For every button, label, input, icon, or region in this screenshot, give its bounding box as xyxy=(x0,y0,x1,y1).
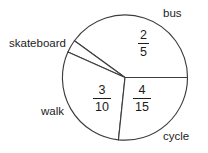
pie-value-walk-numerator: 3 xyxy=(93,84,111,97)
pie-label-bus: bus xyxy=(163,8,182,20)
pie-value-bus-denominator: 5 xyxy=(138,46,149,59)
pie-value-walk-denominator: 10 xyxy=(93,101,111,114)
pie-value-bus: 2 5 xyxy=(138,29,149,58)
pie-label-skateboard: skateboard xyxy=(9,38,66,50)
fraction-bar-icon xyxy=(133,98,151,99)
pie-value-cycle-denominator: 15 xyxy=(133,101,151,114)
fraction-bar-icon xyxy=(138,43,149,44)
pie-label-walk: walk xyxy=(41,106,64,118)
pie-value-cycle-numerator: 4 xyxy=(133,84,151,97)
pie-chart-figure: bus skateboard walk cycle 2 5 3 10 4 15 xyxy=(0,0,208,153)
pie-value-cycle: 4 15 xyxy=(133,84,151,113)
fraction-bar-icon xyxy=(93,98,111,99)
pie-label-cycle: cycle xyxy=(163,131,189,143)
pie-value-walk: 3 10 xyxy=(93,84,111,113)
pie-value-bus-numerator: 2 xyxy=(138,29,149,42)
